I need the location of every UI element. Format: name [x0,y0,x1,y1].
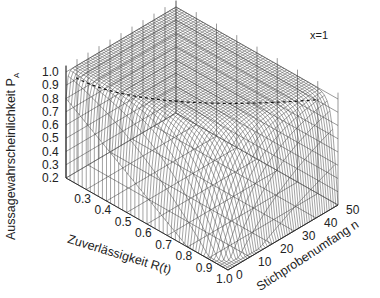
z-tick: 1.0 [42,65,59,79]
y-tick: 10 [258,255,271,269]
y-tick: 40 [324,216,337,230]
surface-line-r [196,81,306,252]
x-tick: 0.5 [115,215,132,229]
x-tick: 0.7 [155,238,172,252]
z-tick: 0.8 [42,92,59,106]
x-tick: 1.0 [216,272,233,286]
z-tick: 0.3 [42,158,59,172]
x-tick: 0.3 [74,192,91,206]
x-tick: 0.6 [135,226,152,240]
z-tick: 0.4 [42,145,59,159]
y-tick: 30 [302,229,315,243]
z-tick: 0.9 [42,78,59,92]
y-tick: 50 [346,203,359,217]
y-tick: 0 [236,268,243,282]
x-tick: 0.8 [176,249,193,263]
z-axis-label: Aussagewahrscheinlichkeit PA [4,73,21,240]
annotation-x-equals-1: x=1 [310,29,328,41]
surface-line-r [198,82,308,253]
x-tick: 0.4 [95,203,112,217]
y-tick: 20 [280,242,293,256]
surface-line-r [158,59,268,211]
z-tick: 0.5 [42,131,59,145]
x-tick: 0.9 [196,261,213,275]
z-tick: 0.7 [42,105,59,119]
z-tick: 0.2 [42,171,59,185]
z-tick: 0.6 [42,118,59,132]
